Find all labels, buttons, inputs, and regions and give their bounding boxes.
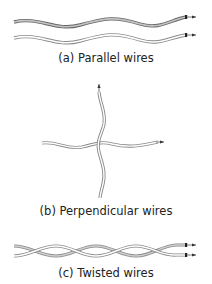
parallel-wire-bottom — [14, 33, 196, 43]
perpendicular-wire-horizontal — [42, 142, 164, 148]
terminal-icon — [185, 15, 187, 19]
terminal-icon — [185, 33, 187, 37]
wire-diagram — [0, 0, 212, 284]
terminal-icon — [185, 253, 187, 257]
caption-perpendicular-wires: (b) Perpendicular wires — [0, 204, 212, 218]
caption-parallel-wires: (a) Parallel wires — [0, 51, 212, 65]
perpendicular-wire-vertical — [98, 84, 104, 198]
caption-twisted-wires: (c) Twisted wires — [0, 266, 212, 280]
parallel-wires — [14, 15, 196, 43]
perpendicular-wires — [42, 84, 164, 198]
terminal-icon — [185, 243, 187, 247]
twisted-wires — [14, 243, 196, 257]
parallel-wire-top — [14, 15, 196, 27]
